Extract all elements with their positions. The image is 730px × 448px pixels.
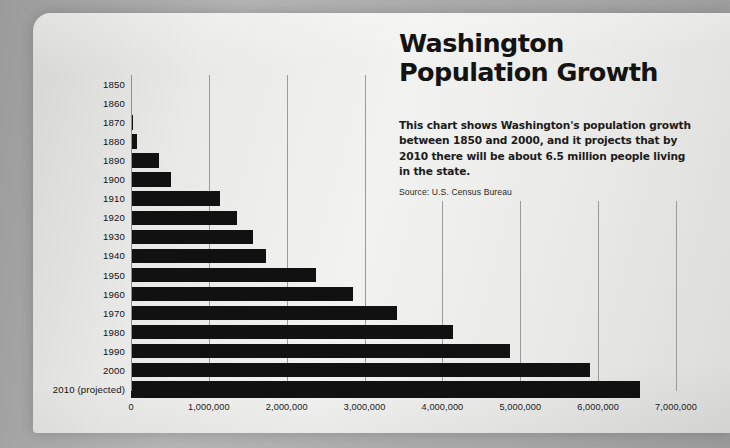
bar	[131, 344, 510, 359]
bar	[131, 153, 159, 168]
x-axis-tick-label: 0	[128, 402, 133, 412]
chart-title-line-2: Population Growth	[399, 58, 719, 87]
bar	[131, 230, 253, 245]
bar	[131, 172, 171, 187]
y-axis-label: 1990	[103, 342, 125, 361]
screenshot-root: Washington Population Growth This chart …	[0, 0, 730, 448]
bar-row: 1960	[131, 285, 676, 304]
x-axis-tick-label: 3,000,000	[344, 402, 386, 412]
y-axis-label: 1870	[103, 113, 125, 132]
y-axis-label: 1930	[103, 227, 125, 246]
chart-description: This chart shows Washington's population…	[399, 118, 699, 180]
bar-row: 1990	[131, 342, 676, 361]
plot-area: 1850186018701880189019001910192019301940…	[131, 62, 676, 396]
chart-title-line-1: Washington	[399, 29, 719, 58]
bar	[131, 325, 453, 340]
gridline-7000000	[676, 201, 677, 391]
x-axis-tick-label: 6,000,000	[577, 402, 619, 412]
bar	[131, 211, 237, 226]
bar-row: 1930	[131, 227, 676, 246]
y-axis-label: 1950	[103, 266, 125, 285]
bar-row: 1860	[131, 94, 676, 113]
y-axis-label: 1850	[103, 75, 125, 94]
y-axis-line	[131, 75, 132, 391]
y-axis-label: 1970	[103, 304, 125, 323]
y-axis-label: 1880	[103, 132, 125, 151]
y-axis-label: 1920	[103, 208, 125, 227]
chart-title: Washington Population Growth	[399, 29, 719, 87]
bar	[131, 381, 640, 398]
bar	[131, 191, 220, 206]
y-axis-label: 1890	[103, 151, 125, 170]
chart-source: Source: U.S. Census Bureau	[399, 187, 699, 197]
y-axis-label: 1860	[103, 94, 125, 113]
bar-row: 1980	[131, 323, 676, 342]
bar-row: 2010 (projected)	[131, 380, 676, 399]
bar-row: 1970	[131, 304, 676, 323]
x-axis-tick-label: 1,000,000	[188, 402, 230, 412]
bar-row: 1940	[131, 246, 676, 265]
y-axis-label: 1910	[103, 189, 125, 208]
bar-row: 2000	[131, 361, 676, 380]
chart-card: Washington Population Growth This chart …	[33, 13, 730, 433]
x-axis-tick-label: 7,000,000	[655, 402, 697, 412]
y-axis-label: 1980	[103, 323, 125, 342]
x-axis-tick-label: 4,000,000	[422, 402, 464, 412]
y-axis-label: 2000	[103, 361, 125, 380]
y-axis-label: 2010 (projected)	[53, 380, 125, 399]
x-axis-tick-label: 2,000,000	[266, 402, 308, 412]
bar	[131, 287, 353, 302]
bar	[131, 363, 590, 378]
bar	[131, 249, 266, 264]
bar	[131, 306, 397, 321]
y-axis-label: 1900	[103, 170, 125, 189]
y-axis-label: 1960	[103, 285, 125, 304]
x-axis: 01,000,0002,000,0003,000,0004,000,0005,0…	[131, 402, 691, 418]
bar-row: 1920	[131, 208, 676, 227]
bar-row: 1950	[131, 266, 676, 285]
bar	[131, 268, 316, 283]
x-axis-tick-label: 5,000,000	[499, 402, 541, 412]
y-axis-label: 1940	[103, 246, 125, 265]
chart-description-block: This chart shows Washington's population…	[399, 118, 699, 197]
